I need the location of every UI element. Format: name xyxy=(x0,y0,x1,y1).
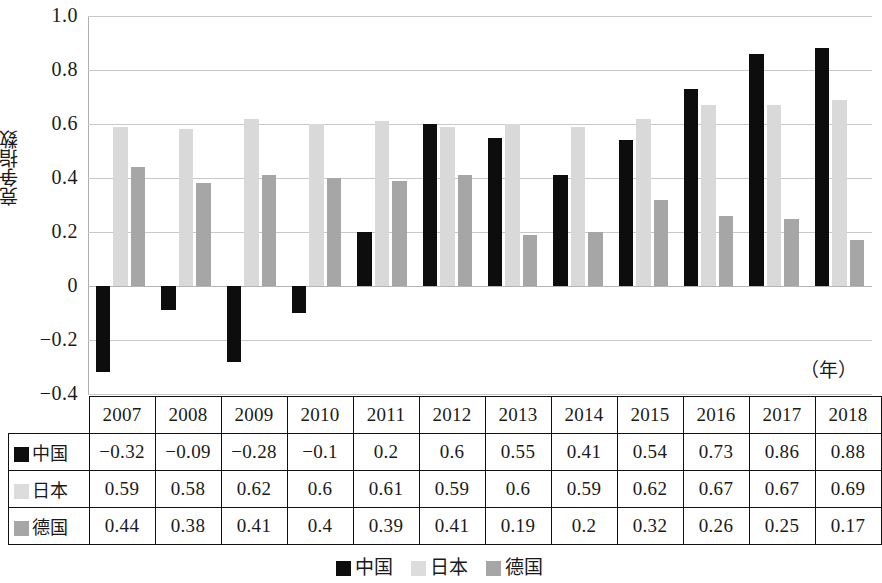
table-cell: 0.41 xyxy=(551,434,617,471)
plot-area xyxy=(88,16,872,394)
table-row: 中国−0.32−0.09−0.28−0.10.20.60.550.410.540… xyxy=(9,434,882,471)
table-cell: 0.6 xyxy=(485,471,551,508)
bar-cn-2009 xyxy=(227,286,242,362)
table-cell: 0.41 xyxy=(221,508,287,545)
bar-cn-2007 xyxy=(96,286,111,372)
table-row-label-text: 日本 xyxy=(32,480,69,501)
table-cell: 0.59 xyxy=(419,471,485,508)
bar-cn-2016 xyxy=(684,89,699,286)
table-cell: 0.62 xyxy=(221,471,287,508)
y-axis-tick-label: −0.2 xyxy=(0,329,78,349)
table-cell: 0.41 xyxy=(419,508,485,545)
table-year-header-2012: 2012 xyxy=(419,397,485,434)
bar-cn-2012 xyxy=(423,124,438,286)
legend-swatch-icon xyxy=(486,561,501,576)
bar-jp-2016 xyxy=(701,105,716,286)
table-cell: 0.4 xyxy=(287,508,353,545)
bar-de-2008 xyxy=(196,183,211,286)
bar-group-2014 xyxy=(545,16,610,394)
bar-group-2018 xyxy=(807,16,872,394)
table-row-label-text: 德国 xyxy=(32,517,69,538)
bar-jp-2010 xyxy=(309,124,324,286)
bar-jp-2013 xyxy=(505,124,520,286)
table-cell: 0.17 xyxy=(815,508,881,545)
bar-group-2016 xyxy=(676,16,741,394)
table-corner-cell xyxy=(9,397,90,434)
table-cell: −0.1 xyxy=(287,434,353,471)
bar-de-2017 xyxy=(784,219,799,287)
table-cell: 0.69 xyxy=(815,471,881,508)
table-cell: 0.19 xyxy=(485,508,551,545)
table-year-header-2010: 2010 xyxy=(287,397,353,434)
table-cell: 0.86 xyxy=(749,434,815,471)
bar-jp-2012 xyxy=(440,127,455,286)
legend-swatch-icon xyxy=(14,521,29,536)
bar-cn-2014 xyxy=(553,175,568,286)
x-axis-unit-label: （年） xyxy=(800,355,857,382)
table-row-label-jp: 日本 xyxy=(9,471,90,508)
y-axis-tick-label: 0.2 xyxy=(0,221,78,241)
bar-de-2015 xyxy=(654,200,669,286)
bar-jp-2018 xyxy=(832,100,847,286)
y-axis-title: 竞争指数 xyxy=(0,130,24,206)
bar-de-2013 xyxy=(523,235,538,286)
bar-jp-2014 xyxy=(571,127,586,286)
table-cell: 0.67 xyxy=(683,471,749,508)
table-cell: 0.26 xyxy=(683,508,749,545)
table-year-header-2018: 2018 xyxy=(815,397,881,434)
bar-de-2009 xyxy=(262,175,277,286)
bar-de-2014 xyxy=(588,232,603,286)
legend-swatch-icon xyxy=(14,447,29,462)
table-year-header-2009: 2009 xyxy=(221,397,287,434)
table-body: 中国−0.32−0.09−0.28−0.10.20.60.550.410.540… xyxy=(9,434,882,545)
bar-de-2018 xyxy=(850,240,865,286)
y-axis-tick-label: 0 xyxy=(0,275,78,295)
legend-item-jp: 日本 xyxy=(411,552,468,579)
table-cell: 0.58 xyxy=(155,471,221,508)
table-cell: 0.62 xyxy=(617,471,683,508)
table-year-header-2017: 2017 xyxy=(749,397,815,434)
bar-cn-2017 xyxy=(749,54,764,286)
legend-item-de: 德国 xyxy=(486,552,543,579)
table-row-label-text: 中国 xyxy=(32,443,69,464)
bar-cn-2010 xyxy=(292,286,307,313)
table-cell: 0.39 xyxy=(353,508,419,545)
bar-group-2012 xyxy=(415,16,480,394)
bar-group-2017 xyxy=(741,16,806,394)
legend-item-label: 中国 xyxy=(355,556,393,578)
gridline xyxy=(88,394,872,395)
bar-de-2012 xyxy=(458,175,473,286)
bar-group-2009 xyxy=(219,16,284,394)
bar-group-2011 xyxy=(349,16,414,394)
table-cell: 0.32 xyxy=(617,508,683,545)
table-cell: 0.2 xyxy=(353,434,419,471)
bar-group-2007 xyxy=(88,16,153,394)
bar-cn-2011 xyxy=(357,232,372,286)
table-cell: 0.38 xyxy=(155,508,221,545)
table-year-header-2011: 2011 xyxy=(353,397,419,434)
bar-group-2008 xyxy=(153,16,218,394)
table-cell: −0.09 xyxy=(155,434,221,471)
table-cell: 0.59 xyxy=(89,471,155,508)
legend-item-label: 德国 xyxy=(505,556,543,578)
bar-jp-2015 xyxy=(636,119,651,286)
table-cell: 0.61 xyxy=(353,471,419,508)
table-year-header-2016: 2016 xyxy=(683,397,749,434)
bar-jp-2008 xyxy=(179,129,194,286)
table-cell: 0.67 xyxy=(749,471,815,508)
table-year-header-2013: 2013 xyxy=(485,397,551,434)
table-row: 德国0.440.380.410.40.390.410.190.20.320.26… xyxy=(9,508,882,545)
table-cell: −0.28 xyxy=(221,434,287,471)
table-cell: 0.6 xyxy=(287,471,353,508)
y-axis-tick-label: 1.0 xyxy=(0,5,78,25)
table-cell: 0.2 xyxy=(551,508,617,545)
table-year-header-2015: 2015 xyxy=(617,397,683,434)
bar-cn-2015 xyxy=(619,140,634,286)
legend-swatch-icon xyxy=(411,561,426,576)
table-cell: 0.55 xyxy=(485,434,551,471)
bar-cn-2008 xyxy=(161,286,176,310)
table-cell: 0.88 xyxy=(815,434,881,471)
table-cell: −0.32 xyxy=(89,434,155,471)
bar-de-2010 xyxy=(327,178,342,286)
bar-group-2015 xyxy=(611,16,676,394)
